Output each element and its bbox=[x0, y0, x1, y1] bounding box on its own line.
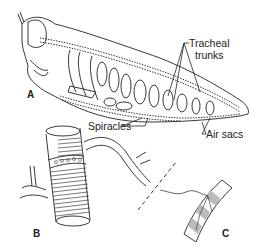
label-air-sacs: Air sacs bbox=[206, 129, 243, 140]
panel-a-grasshopper bbox=[18, 12, 249, 122]
panel-label-b: B bbox=[33, 228, 40, 239]
panel-label-a: A bbox=[27, 89, 34, 100]
panel-b-trachea bbox=[20, 126, 150, 226]
label-tracheal-trunks: Tracheal bbox=[189, 38, 229, 49]
panel-label-c: C bbox=[222, 228, 229, 239]
label-spiracles: Spiracles bbox=[88, 121, 131, 132]
label-tracheal-trunks-line2: trunks bbox=[195, 50, 224, 61]
divider-dashed bbox=[138, 162, 176, 210]
